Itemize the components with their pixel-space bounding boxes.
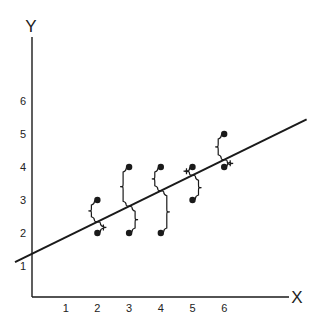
y-tick-label: 4	[20, 162, 26, 173]
residual-brace	[152, 167, 161, 191]
data-point	[158, 164, 164, 170]
x-tick-label: 5	[189, 303, 195, 314]
data-point	[221, 131, 227, 137]
residual-brace	[215, 134, 224, 160]
y-tick-label: 6	[20, 96, 26, 107]
data-point	[126, 230, 132, 236]
data-point	[94, 197, 100, 203]
scatter-chart	[0, 0, 319, 327]
x-tick-label: 1	[63, 303, 69, 314]
data-points	[94, 131, 227, 236]
x-axis-label: X	[291, 289, 302, 306]
y-axis-label: Y	[25, 18, 36, 35]
y-tick-label: 3	[20, 195, 26, 206]
residual-brace	[161, 191, 170, 233]
residual-brace	[193, 175, 202, 200]
x-tick-label: 3	[126, 303, 132, 314]
data-point	[94, 230, 100, 236]
x-tick-label: 2	[94, 303, 100, 314]
y-tick-label: 1	[20, 261, 26, 272]
y-tick-label: 2	[20, 228, 26, 239]
data-point	[158, 230, 164, 236]
y-tick-label: 5	[20, 129, 26, 140]
data-point	[221, 164, 227, 170]
x-tick-label: 4	[158, 303, 164, 314]
residual-brace	[120, 167, 129, 206]
residual-brace	[88, 200, 97, 222]
residual-braces	[88, 134, 233, 233]
data-point	[126, 164, 132, 170]
x-tick-label: 6	[221, 303, 227, 314]
data-point	[189, 164, 195, 170]
residual-brace	[129, 206, 138, 233]
data-point	[189, 197, 195, 203]
